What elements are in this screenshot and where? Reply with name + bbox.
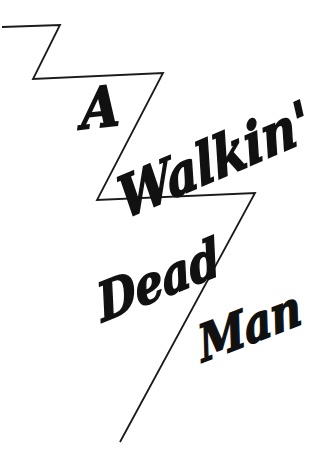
handwritten-word-a: A [80,78,120,138]
lightning-bolt-zigzag [0,0,311,462]
artwork-canvas: A Walkin' Dead Man [0,0,311,462]
lightning-bolt-path [2,25,255,442]
